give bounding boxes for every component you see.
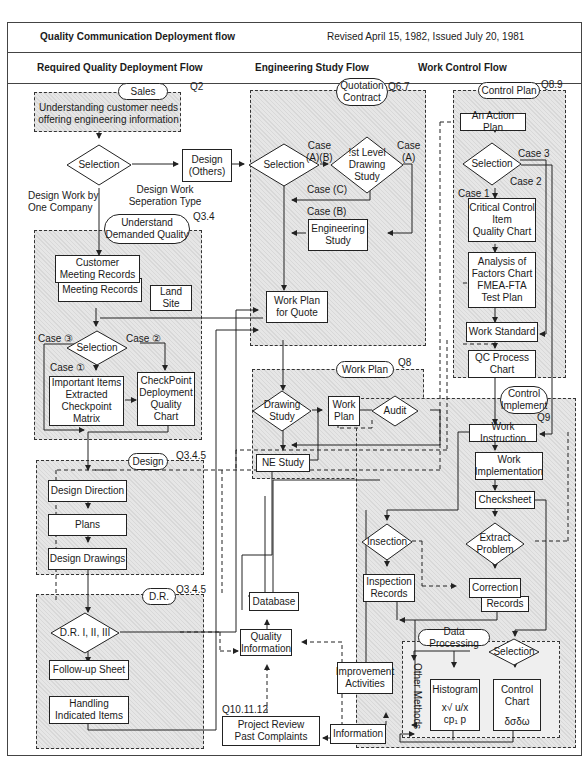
control-implement-ref: Q9 <box>537 412 550 424</box>
column-header-work-control: Work Control Flow <box>418 62 507 74</box>
checkpoint-chart-box: CheckPoint Deployment Quality Chart <box>137 372 195 426</box>
design-others-box: Design (Others) <box>182 149 232 182</box>
drawing-study-decision: Drawing Study <box>252 390 312 432</box>
extract-problem-decision: Extract Problem <box>465 522 525 566</box>
case-b-label: Case (B) <box>307 206 346 218</box>
understand-quality-label: Understand Demanded Quality <box>104 214 190 244</box>
ne-study-box: NE Study <box>256 454 310 472</box>
critical-control-box: Critical Control Item Quality Chart <box>468 198 536 242</box>
control-chart-formula: δσδω <box>504 716 529 728</box>
work-plan-ref: Q8 <box>398 357 411 369</box>
column-header-engineering-study: Engineering Study Flow <box>255 62 369 74</box>
design-ref: Q3.4.5 <box>176 450 206 462</box>
project-review-box: Project Review Past Complaints <box>222 716 320 746</box>
design-drawings-box: Design Drawings <box>48 548 127 570</box>
customer-meeting-records-box: Customer Meeting Records <box>55 255 140 283</box>
data-processing-label: Data Processing <box>418 629 490 646</box>
selection-2-decision: Selection <box>66 330 128 366</box>
project-review-ref: Q10.11.12 <box>222 704 268 716</box>
work-implementation-box: Work Implementation <box>475 452 543 480</box>
dp-selection-decision: Selection <box>488 638 540 666</box>
qc-process-chart-box: QC Process Chart <box>468 350 536 378</box>
case-c-label: Case (C) <box>307 184 347 196</box>
follow-up-sheet-box: Follow-up Sheet <box>49 660 129 680</box>
insection-decision: Insection <box>361 523 413 561</box>
sales-label: Sales <box>118 83 168 100</box>
control-plan-label: Control Plan <box>478 82 540 99</box>
handling-items-box: Handling Indicated Items <box>49 696 129 724</box>
design-work-type-label: Design Work Seperation Type <box>120 184 210 208</box>
sales-ref: Q2 <box>190 81 203 93</box>
case-2-label: Case ② <box>126 333 161 345</box>
case-a-label: Case (A) <box>397 140 420 164</box>
dr-ref: Q3.4.5 <box>176 584 206 596</box>
work-plan-box: Work Plan <box>328 396 360 426</box>
land-site-box: Land Site <box>150 285 192 311</box>
column-header-required-quality: Required Quality Deployment Flow <box>37 62 203 74</box>
case-1-label: Case ① <box>50 362 85 374</box>
one-company-label: Design Work by One Company <box>28 190 98 214</box>
information-box: Information <box>330 724 386 744</box>
quality-information-box: Quality Information <box>240 629 292 656</box>
control-case-3-label: Case 3 <box>518 148 550 160</box>
control-chart-box: Control Chart δσδω <box>493 679 541 731</box>
dr-label: D.R. <box>142 588 176 605</box>
work-standard-box: Work Standard <box>466 322 538 342</box>
inspection-records-box: Inspection Records <box>363 574 415 602</box>
quotation-contract-label: Quotation Contract <box>336 78 388 106</box>
histogram-box: Histogram x√ u/x cp₁ p <box>430 679 480 731</box>
database-box: Database <box>249 592 299 611</box>
design-direction-box: Design Direction <box>48 480 127 502</box>
histogram-formula-2: cp₁ p <box>444 714 466 726</box>
analysis-factors-box: Analysis of Factors Chart FMEA-FTA Test … <box>468 252 536 308</box>
understand-quality-ref: Q3.4 <box>193 211 215 223</box>
diagram-title: Quality Communication Deployment flow <box>40 31 235 43</box>
control-plan-ref: Q8.9 <box>541 79 563 91</box>
correction-box: Correction <box>469 578 521 598</box>
dr-levels-decision: D.R. I, II, III <box>50 612 120 654</box>
important-items-box: Important Items Extracted Checkpoint Mat… <box>49 376 124 426</box>
sales-note: Understanding customer needs offering en… <box>36 102 181 126</box>
records-box: Records <box>481 596 529 612</box>
other-methods-label: Other Methods <box>411 663 423 729</box>
case-ab-label: Case (A)(B) <box>306 140 333 164</box>
engineering-study-box: Engineering Study <box>308 219 368 251</box>
control-case-2-label: Case 2 <box>510 176 542 188</box>
selection-decision: Selection <box>66 144 132 186</box>
control-implement-label: Control Implement <box>500 386 548 414</box>
revision-date: Revised April 15, 1982, Issued July 20, … <box>327 31 524 43</box>
improvement-activities-box: Improvement Activities <box>337 662 393 694</box>
plans-box: Plans <box>48 514 127 536</box>
work-plan-quote-box: Work Plan for Quote <box>266 291 328 323</box>
work-instruction-box: Work Instruction <box>469 424 537 442</box>
work-plan-zone-label: Work Plan <box>336 361 394 378</box>
action-plan-box: An Action Plan <box>460 113 526 131</box>
histogram-formula-1: x√ u/x <box>442 702 469 714</box>
checksheet-box: Checksheet <box>475 491 535 509</box>
audit-decision: Audit <box>371 395 419 427</box>
design-label: Design <box>128 453 168 470</box>
quotation-ref: Q6.7 <box>388 81 410 93</box>
